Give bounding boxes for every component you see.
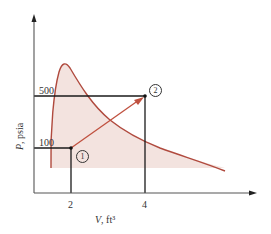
x-tick-4: 4 xyxy=(142,200,147,210)
y-axis-label: P, psia xyxy=(14,123,25,150)
state-label-1: 1 xyxy=(76,150,89,163)
y-axis-arrowhead-icon xyxy=(32,14,37,22)
x-tick-2: 2 xyxy=(68,200,73,210)
x-axis-unit: , ft³ xyxy=(101,214,115,225)
state-point-1 xyxy=(69,146,73,150)
y-tick-500: 500 xyxy=(39,86,54,96)
y-axis-unit: , psia xyxy=(14,123,25,144)
y-axis-var: P xyxy=(14,144,25,150)
state-label-2: 2 xyxy=(149,84,162,97)
state-point-2 xyxy=(143,94,147,98)
y-tick-100: 100 xyxy=(39,138,54,148)
x-axis-arrowhead-icon xyxy=(249,191,257,196)
pv-diagram xyxy=(0,0,271,234)
x-axis-label: V, ft³ xyxy=(95,215,115,225)
process-arrowhead-icon xyxy=(134,97,144,105)
